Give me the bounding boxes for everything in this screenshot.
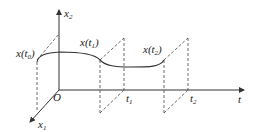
point-label-t0: x(t0) (15, 47, 35, 61)
x1-axis-label: x1 (37, 118, 46, 132)
origin-label: O (53, 91, 61, 103)
point-label-t2: x(t2) (142, 43, 162, 57)
t2-plane (164, 38, 188, 113)
tick-label-t1: t1 (126, 92, 133, 106)
tick-label-t2: t2 (190, 92, 197, 106)
t-axis-label: t (238, 93, 242, 105)
x2-axis-label: x2 (63, 7, 73, 21)
t1-plane (100, 38, 124, 113)
trajectory-diagram: x2 t x1 O x(t0) x(t1) x(t2) t1 t2 (0, 0, 257, 132)
point-label-t1: x(t1) (79, 36, 99, 50)
